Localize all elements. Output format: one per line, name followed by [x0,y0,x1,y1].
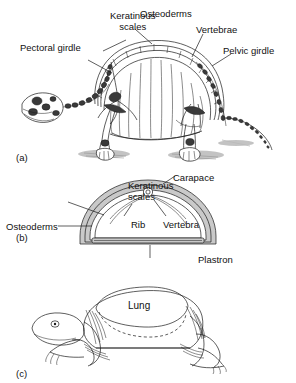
label-vertebra-b: Vertebra [163,219,199,230]
panel-letter-b: (b) [16,232,28,243]
label-carapace-b: Carapace [173,172,214,183]
label-lung-c: Lung [128,300,150,311]
label-plastron-b: Plastron [198,254,233,265]
panel-letter-c: (c) [16,368,27,379]
panel-letter-a: (a) [16,152,28,163]
skull [22,93,63,123]
right-forelimb [180,306,226,374]
lung-cavity-dashed [99,312,186,337]
label-vertebrae-a: Vertebrae [196,24,237,35]
label-rib-b: Rib [131,219,145,230]
panel-c-illustration [0,282,296,383]
label-keratinous-scales-b: Keratinous scales [128,180,173,202]
label-pectoral-girdle-a: Pectoral girdle [20,42,81,53]
vertebral-column [196,62,226,126]
label-osteoderms-a: Osteoderms [140,8,192,19]
label-pelvic-girdle-a: Pelvic girdle [223,45,274,56]
turtle-anatomy-figure: Keratinous scales Osteoderms Vertebrae P… [0,0,296,383]
cervical-vertebrae [63,64,112,108]
label-osteoderms-b: Osteoderms [6,221,58,232]
